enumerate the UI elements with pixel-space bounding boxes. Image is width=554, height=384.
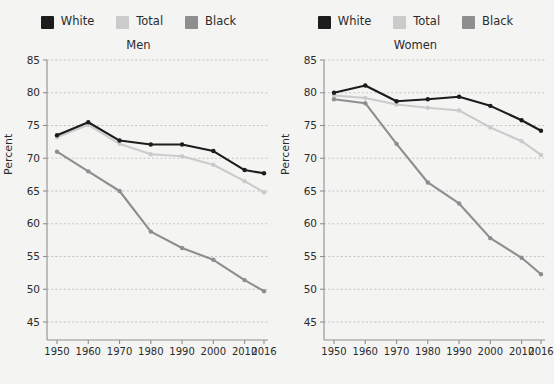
svg-text:85: 85 xyxy=(304,54,317,66)
svg-text:50: 50 xyxy=(304,283,317,295)
chart-svg-women: 4550556065707580851950196019701980199020… xyxy=(277,0,554,384)
svg-text:65: 65 xyxy=(27,185,40,197)
svg-text:1950: 1950 xyxy=(321,346,346,357)
svg-text:1970: 1970 xyxy=(384,346,409,357)
svg-text:60: 60 xyxy=(304,217,317,229)
svg-text:75: 75 xyxy=(304,119,317,131)
svg-text:70: 70 xyxy=(27,152,40,164)
svg-text:45: 45 xyxy=(304,316,317,328)
svg-text:1960: 1960 xyxy=(76,346,101,357)
panel-women: White Total Black Women Percent 45505560… xyxy=(277,0,554,384)
svg-text:2016: 2016 xyxy=(251,346,276,357)
svg-text:80: 80 xyxy=(27,86,40,98)
panel-men: White Total Black Men Percent 4550556065… xyxy=(0,0,277,384)
svg-text:1950: 1950 xyxy=(44,346,69,357)
chart-figure: White Total Black Men Percent 4550556065… xyxy=(0,0,554,384)
svg-text:80: 80 xyxy=(304,86,317,98)
svg-text:1990: 1990 xyxy=(169,346,194,357)
svg-text:70: 70 xyxy=(304,152,317,164)
svg-text:60: 60 xyxy=(27,217,40,229)
svg-text:2000: 2000 xyxy=(201,346,226,357)
svg-text:65: 65 xyxy=(304,185,317,197)
svg-text:1960: 1960 xyxy=(353,346,378,357)
svg-text:85: 85 xyxy=(27,54,40,66)
svg-text:55: 55 xyxy=(304,250,317,262)
svg-text:75: 75 xyxy=(27,119,40,131)
plot-men: Percent 45505560657075808519501960197019… xyxy=(0,0,277,384)
svg-text:1980: 1980 xyxy=(138,346,163,357)
svg-text:55: 55 xyxy=(27,250,40,262)
chart-svg-men: 4550556065707580851950196019701980199020… xyxy=(0,0,277,384)
svg-text:1970: 1970 xyxy=(107,346,132,357)
plot-women: Percent 45505560657075808519501960197019… xyxy=(277,0,554,384)
svg-text:1980: 1980 xyxy=(415,346,440,357)
svg-text:50: 50 xyxy=(27,283,40,295)
svg-text:2000: 2000 xyxy=(478,346,503,357)
svg-text:1990: 1990 xyxy=(446,346,471,357)
svg-text:2016: 2016 xyxy=(528,346,553,357)
svg-text:45: 45 xyxy=(27,316,40,328)
